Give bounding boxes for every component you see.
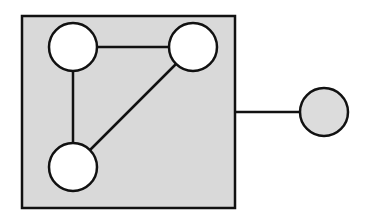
graph-diagram — [0, 0, 371, 222]
node-n2 — [169, 23, 217, 71]
node-n4 — [300, 88, 348, 136]
node-n3 — [49, 143, 97, 191]
node-n1 — [49, 23, 97, 71]
